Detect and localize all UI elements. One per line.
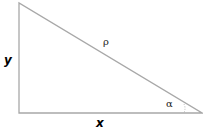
label-alpha: α [166, 99, 173, 109]
angle-arc [184, 104, 185, 113]
label-y: y [4, 54, 12, 66]
triangle-figure [0, 0, 203, 131]
label-x: x [96, 117, 104, 129]
right-triangle [19, 3, 202, 113]
label-rho: ρ [103, 37, 109, 47]
